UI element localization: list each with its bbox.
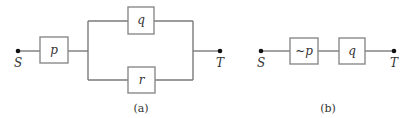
terminal-s-label-b: S	[257, 56, 265, 70]
switching-circuits-figure: p q r S T (a) ~p q S T (b)	[0, 0, 411, 118]
switch-q-b-label: q	[348, 44, 356, 58]
terminal-s-label: S	[14, 56, 22, 70]
terminal-t-dot	[218, 49, 223, 54]
caption-b: (b)	[320, 102, 336, 115]
terminal-s-dot-b	[259, 49, 264, 54]
switch-p-label: p	[50, 43, 58, 57]
switch-q-label: q	[137, 13, 145, 27]
terminal-t-dot-b	[392, 49, 397, 54]
circuit-a: p q r S T (a)	[14, 7, 225, 115]
switch-not-p-label: ~p	[295, 44, 313, 58]
terminal-t-label: T	[216, 56, 225, 70]
terminal-t-label-b: T	[390, 56, 399, 70]
circuit-b: ~p q S T (b)	[257, 38, 399, 115]
terminal-s-dot	[16, 49, 21, 54]
caption-a: (a)	[133, 102, 148, 115]
